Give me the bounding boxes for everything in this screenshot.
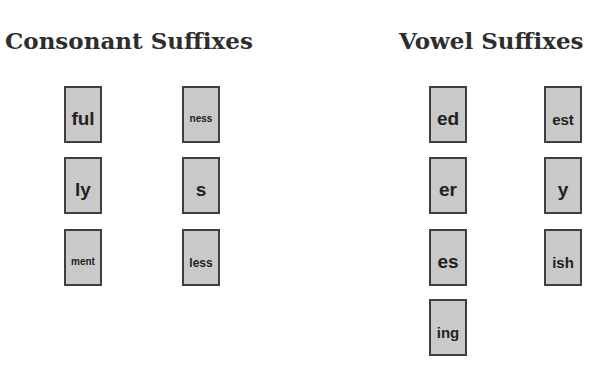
suffix-label: ness — [190, 114, 213, 124]
vowel-suffixes-title: Vowel Suffixes — [399, 27, 584, 54]
suffix-label: ed — [437, 109, 459, 128]
suffix-label: ing — [437, 325, 460, 340]
suffix-card-ment: ment — [64, 229, 102, 286]
suffix-label: ment — [71, 257, 95, 267]
suffix-label: y — [558, 180, 569, 199]
suffix-label: ly — [75, 180, 91, 199]
suffix-card-ed: ed — [429, 86, 467, 143]
suffix-label: er — [439, 180, 457, 199]
suffix-card-y: y — [544, 157, 582, 214]
suffix-card-es: es — [429, 229, 467, 286]
suffix-label: es — [437, 252, 458, 271]
suffix-card-ly: ly — [64, 157, 102, 214]
suffix-card-ing: ing — [429, 299, 467, 356]
suffix-card-ful: ful — [64, 86, 102, 143]
suffix-card-ness: ness — [182, 86, 220, 143]
suffix-card-s: s — [182, 157, 220, 214]
suffix-label: est — [552, 112, 574, 127]
suffix-label: ish — [552, 255, 574, 270]
suffix-label: s — [196, 180, 207, 199]
suffix-card-less: less — [182, 229, 220, 286]
suffix-card-er: er — [429, 157, 467, 214]
suffix-card-est: est — [544, 86, 582, 143]
suffix-label: ful — [71, 109, 94, 128]
consonant-suffixes-title: Consonant Suffixes — [5, 27, 253, 54]
suffix-card-ish: ish — [544, 229, 582, 286]
suffix-label: less — [189, 257, 212, 269]
